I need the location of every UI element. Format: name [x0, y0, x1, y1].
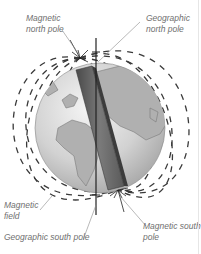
leader-magnetic-field	[40, 196, 52, 210]
leader-magnetic-north	[62, 30, 80, 56]
label-geographic-north-pole: Geographic north pole	[146, 13, 190, 35]
right-border	[198, 0, 199, 254]
magnetic-field-diagram: Magnetic north pole Geographic north pol…	[0, 0, 201, 254]
leader-geographic-north	[98, 22, 140, 62]
label-magnetic-north-pole: Magnetic north pole	[26, 13, 64, 35]
label-magnetic-field: Magnetic field	[4, 200, 39, 222]
label-geographic-south-pole: Geographic south pole	[4, 232, 90, 243]
label-magnetic-south-pole: Magnetic south pole	[143, 221, 201, 243]
